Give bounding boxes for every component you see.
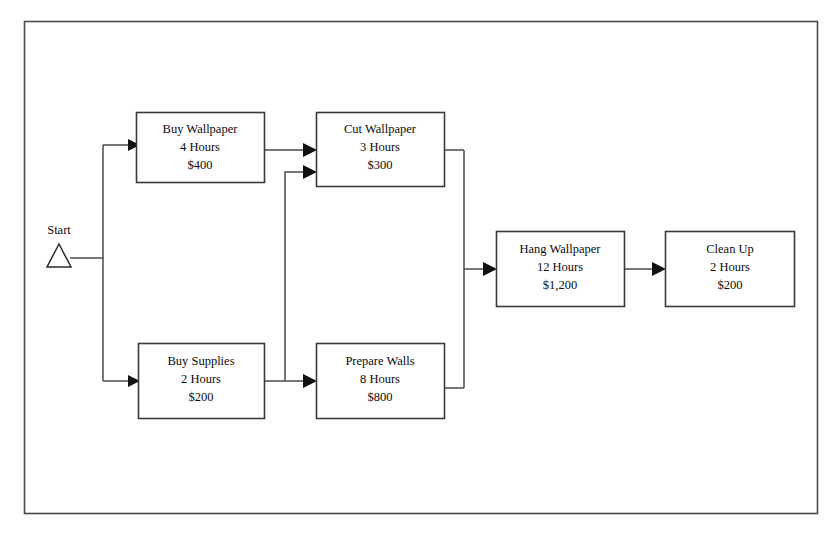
- node-buy-wallpaper-cost: $400: [188, 158, 213, 172]
- node-buy-supplies-duration: 2 Hours: [181, 372, 221, 386]
- start-marker-group: Start: [47, 223, 71, 267]
- arrowhead-cut-wallpaper-in-bottom: [303, 165, 317, 179]
- node-buy-supplies[interactable]: Buy Supplies 2 Hours $200: [139, 344, 265, 419]
- node-clean-up[interactable]: Clean Up 2 Hours $200: [666, 232, 795, 307]
- node-cut-wallpaper-cost: $300: [368, 158, 393, 172]
- node-clean-up-name: Clean Up: [706, 242, 754, 256]
- node-cut-wallpaper-name: Cut Wallpaper: [344, 122, 417, 136]
- arrowhead-prepare-walls-in: [303, 374, 317, 388]
- node-clean-up-cost: $200: [718, 278, 743, 292]
- node-hang-wallpaper-duration: 12 Hours: [537, 260, 583, 274]
- node-cut-wallpaper-duration: 3 Hours: [360, 140, 400, 154]
- node-prepare-walls-cost: $800: [368, 390, 393, 404]
- node-hang-wallpaper-name: Hang Wallpaper: [519, 242, 601, 256]
- arrowhead-hang-wallpaper-in: [483, 262, 497, 276]
- triangle-outline-icon: [47, 244, 71, 267]
- arrowhead-cut-wallpaper-in-top: [303, 143, 317, 157]
- node-clean-up-duration: 2 Hours: [710, 260, 750, 274]
- node-cut-wallpaper[interactable]: Cut Wallpaper 3 Hours $300: [317, 113, 445, 187]
- edge-buy-supplies-to-cut-wallpaper: [285, 172, 303, 381]
- node-hang-wallpaper-cost: $1,200: [543, 278, 577, 292]
- node-prepare-walls-duration: 8 Hours: [360, 372, 400, 386]
- node-buy-wallpaper[interactable]: Buy Wallpaper 4 Hours $400: [137, 113, 265, 183]
- node-buy-wallpaper-name: Buy Wallpaper: [163, 122, 239, 136]
- node-prepare-walls[interactable]: Prepare Walls 8 Hours $800: [317, 344, 445, 419]
- node-buy-supplies-name: Buy Supplies: [167, 354, 234, 368]
- node-buy-wallpaper-duration: 4 Hours: [180, 140, 220, 154]
- node-prepare-walls-name: Prepare Walls: [345, 354, 414, 368]
- diagram-canvas: Start Buy Wallpaper 4 Hours $400 Cut Wal…: [0, 0, 839, 537]
- arrowhead-clean-up-in: [652, 262, 666, 276]
- node-hang-wallpaper[interactable]: Hang Wallpaper 12 Hours $1,200: [497, 232, 625, 307]
- node-buy-supplies-cost: $200: [189, 390, 214, 404]
- start-label: Start: [47, 223, 71, 237]
